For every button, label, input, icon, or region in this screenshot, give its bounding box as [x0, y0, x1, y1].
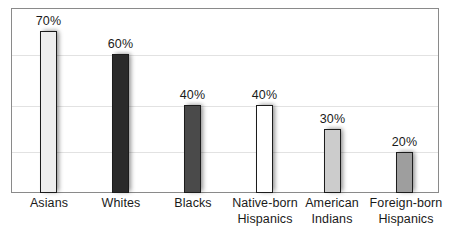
bar-group-foreign-born-hispanics: 20% — [396, 8, 413, 193]
bar-value-american-indians: 30% — [320, 112, 346, 126]
category-label-blacks-line1: Blacks — [155, 196, 231, 212]
category-label-whites-line1: Whites — [83, 196, 159, 212]
category-label-native-born-hispanics-line2: Hispanics — [224, 212, 306, 228]
bars-layer: 70% 60% 40% 40% 30% 20% — [11, 8, 439, 193]
bar-group-blacks: 40% — [184, 8, 201, 193]
category-label-american-indians-line1: American — [295, 196, 369, 212]
category-label-asians-line1: Asians — [11, 196, 87, 212]
bar-group-native-born-hispanics: 40% — [256, 8, 273, 193]
category-labels: Asians Whites Blacks Native-born Hispani… — [11, 196, 439, 242]
bar-group-asians: 70% — [40, 8, 57, 193]
bar-native-born-hispanics[interactable] — [256, 105, 273, 193]
category-label-native-born-hispanics: Native-born Hispanics — [224, 196, 306, 227]
bar-blacks[interactable] — [184, 105, 201, 193]
category-label-american-indians-line2: Indians — [295, 212, 369, 228]
category-label-asians: Asians — [11, 196, 87, 212]
bar-chart: 70% 60% 40% 40% 30% 20% Asians Whites — [0, 0, 449, 242]
bar-group-whites: 60% — [112, 8, 129, 193]
category-label-blacks: Blacks — [155, 196, 231, 212]
bar-value-foreign-born-hispanics: 20% — [392, 135, 418, 149]
bar-group-american-indians: 30% — [324, 8, 341, 193]
bar-value-asians: 70% — [36, 14, 62, 28]
category-label-native-born-hispanics-line1: Native-born — [224, 196, 306, 212]
category-label-foreign-born-hispanics-line1: Foreign-born — [363, 196, 449, 212]
category-label-foreign-born-hispanics-line2: Hispanics — [363, 212, 449, 228]
bar-foreign-born-hispanics[interactable] — [396, 152, 413, 193]
bar-asians[interactable] — [40, 31, 57, 193]
bar-american-indians[interactable] — [324, 129, 341, 193]
bar-value-blacks: 40% — [180, 88, 206, 102]
bar-value-whites: 60% — [108, 37, 134, 51]
category-label-foreign-born-hispanics: Foreign-born Hispanics — [363, 196, 449, 227]
category-label-american-indians: American Indians — [295, 196, 369, 227]
category-label-whites: Whites — [83, 196, 159, 212]
bar-value-native-born-hispanics: 40% — [252, 88, 278, 102]
bar-whites[interactable] — [112, 54, 129, 193]
